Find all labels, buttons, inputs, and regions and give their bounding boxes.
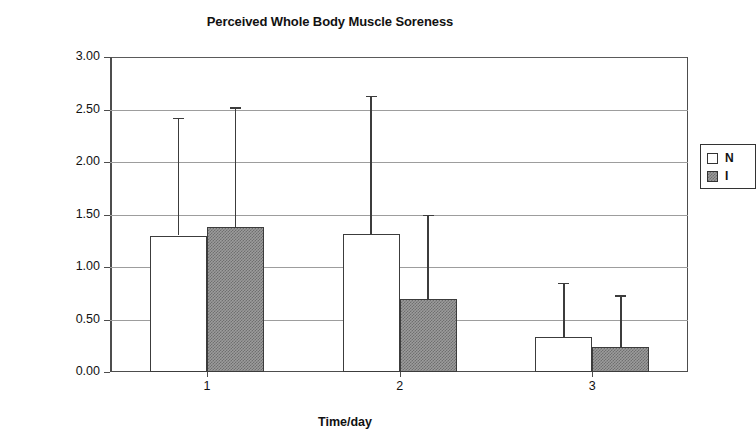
- y-axis-tick: [104, 320, 110, 321]
- x-axis-tick-label-1: 1: [187, 379, 227, 393]
- y-axis-tick: [104, 215, 110, 216]
- bar-N-day-1: [150, 236, 207, 373]
- y-axis-tick-label: 0.50: [38, 312, 100, 326]
- error-bar-stem-N-day-1: [178, 118, 179, 236]
- error-bar-cap-I-day-2: [423, 215, 434, 216]
- error-bar-stem-N-day-3: [563, 283, 564, 338]
- gridline: [110, 110, 688, 111]
- legend-label-I: I: [725, 170, 728, 182]
- y-axis-tick-label: 1.00: [38, 259, 100, 273]
- y-axis-tick-label: 3.00: [38, 49, 100, 63]
- x-axis-title: Time/day: [0, 415, 690, 429]
- y-axis-tick: [104, 162, 110, 163]
- legend-label-N: N: [725, 152, 734, 164]
- gridline: [110, 215, 688, 216]
- y-axis-tick: [104, 110, 110, 111]
- error-bar-cap-N-day-3: [558, 283, 569, 284]
- y-axis-tick-label: 2.00: [38, 154, 100, 168]
- error-bar-stem-I-day-1: [235, 107, 236, 227]
- error-bar-stem-N-day-2: [370, 96, 371, 235]
- error-bar-cap-I-day-3: [615, 295, 626, 296]
- chart-title: Perceived Whole Body Muscle Soreness: [0, 14, 660, 29]
- error-bar-stem-I-day-2: [427, 215, 428, 299]
- error-bar-cap-I-day-1: [230, 107, 241, 108]
- y-axis-tick: [104, 267, 110, 268]
- plot-top-border: [110, 57, 688, 58]
- legend-item-N[interactable]: N: [707, 150, 734, 166]
- y-axis-tick-label: 1.50: [38, 207, 100, 221]
- bar-N-day-3: [535, 337, 592, 372]
- bar-I-day-3: [592, 347, 649, 372]
- y-axis-tick: [104, 372, 110, 373]
- legend-swatch-N: [707, 153, 718, 164]
- legend-swatch-I: [707, 171, 718, 182]
- error-bar-cap-N-day-1: [173, 118, 184, 119]
- y-axis-tick-label: 0.00: [38, 364, 100, 378]
- x-axis-tick-label-3: 3: [572, 379, 612, 393]
- gridline: [110, 162, 688, 163]
- bar-I-day-2: [400, 299, 457, 373]
- error-bar-cap-N-day-2: [366, 96, 377, 97]
- error-bar-stem-I-day-3: [620, 295, 621, 346]
- x-axis-tick: [207, 372, 208, 377]
- legend-box[interactable]: NI: [700, 144, 756, 189]
- bar-N-day-2: [343, 234, 400, 372]
- y-axis-tick-label: 2.50: [38, 102, 100, 116]
- bar-I-day-1: [207, 227, 264, 372]
- x-axis-tick-label-2: 2: [380, 379, 420, 393]
- legend-item-I[interactable]: I: [707, 168, 728, 184]
- x-axis-tick: [592, 372, 593, 377]
- y-axis-tick: [104, 57, 110, 58]
- plot-area: 0.000.501.001.502.002.503.00 123 NI: [110, 57, 688, 372]
- x-axis-tick: [400, 372, 401, 377]
